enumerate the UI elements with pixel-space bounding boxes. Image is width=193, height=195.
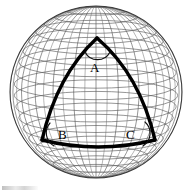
spherical-triangle-figure: A B C [0, 0, 193, 195]
vertex-label-b: B [58, 128, 67, 141]
globe-grid-group [10, 0, 182, 183]
globe-wireframe-svg [0, 0, 193, 195]
edge-AC [97, 38, 155, 140]
vertex-label-a: A [90, 61, 99, 74]
vertex-label-c: C [126, 128, 135, 141]
bottom-left-smudge-artifact [2, 186, 38, 190]
